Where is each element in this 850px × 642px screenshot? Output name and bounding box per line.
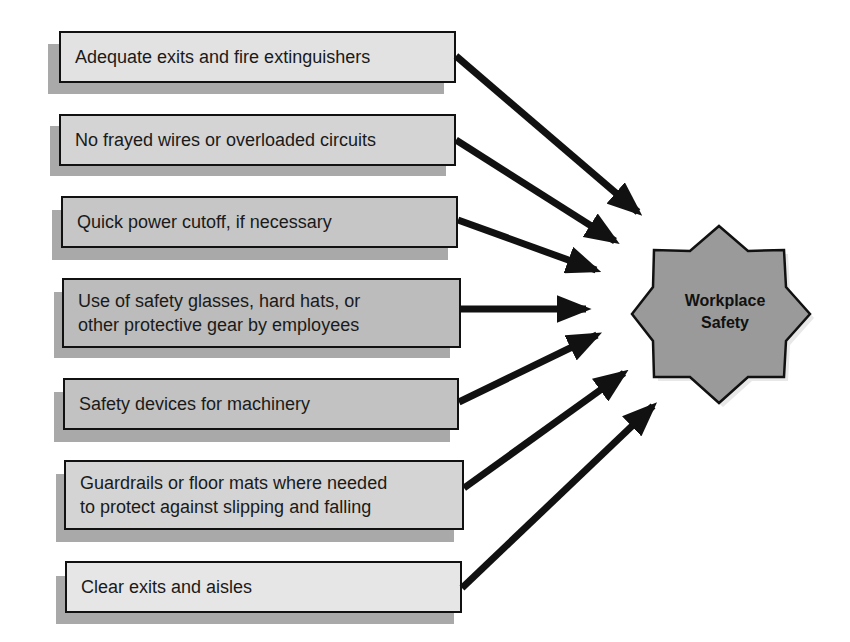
arrow-1: [456, 56, 638, 212]
arrow-7: [462, 406, 653, 588]
center-label: Workplace Safety: [655, 290, 795, 334]
arrow-5: [459, 335, 597, 402]
arrow-3: [458, 220, 596, 270]
